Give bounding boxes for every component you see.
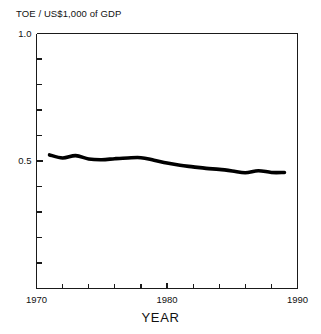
- y-axis-ticks: [37, 34, 43, 264]
- x-axis-ticks: [37, 283, 298, 289]
- data-line-0: [50, 155, 285, 173]
- axis-frame: [37, 34, 298, 289]
- chart-figure: TOE / US$1,000 of GDP 1.0 0.5 1970 1980 …: [0, 0, 321, 334]
- plot-area: [0, 0, 321, 334]
- data-series-group: [50, 155, 285, 173]
